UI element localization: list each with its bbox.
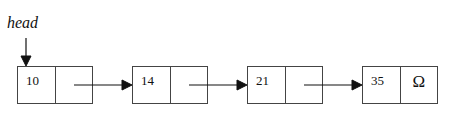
next-arrow-icon [74, 80, 132, 90]
next-arrow-icon [189, 80, 247, 90]
arrows-layer [0, 0, 454, 114]
next-arrow-icon [304, 80, 362, 90]
head-arrow-icon [21, 38, 31, 66]
